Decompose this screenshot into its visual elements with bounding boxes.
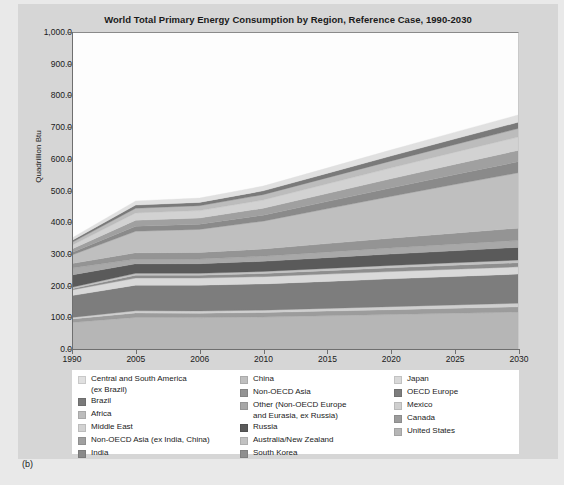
legend-swatch-icon: [240, 389, 248, 397]
legend-column-1: Central and South America (ex Brazil)Bra…: [78, 374, 238, 461]
y-tick-label: 100.0: [28, 312, 72, 322]
legend-swatch-icon: [240, 402, 248, 410]
x-tick-label: 1990: [42, 354, 102, 364]
stacked-area-plot: [72, 33, 518, 349]
legend-item-label: India: [91, 448, 108, 459]
y-tick-mark: [67, 32, 72, 33]
y-tick-mark: [67, 95, 72, 96]
x-tick-label: 2030: [489, 354, 549, 364]
y-tick-mark: [67, 64, 72, 65]
x-tick-label: 2006: [170, 354, 230, 364]
legend-item[interactable]: Australia/New Zealand: [240, 435, 388, 447]
y-tick-mark: [67, 159, 72, 160]
y-axis-ticks: 0.0100.0200.0300.0400.0500.0600.0700.080…: [18, 4, 72, 485]
legend-swatch-icon: [394, 415, 402, 423]
chart-legend: Central and South America (ex Brazil)Bra…: [72, 370, 519, 454]
y-tick-label: 0.0: [28, 344, 72, 354]
legend-swatch-icon: [394, 376, 402, 384]
y-tick-mark: [67, 191, 72, 192]
y-tick-mark: [67, 222, 72, 223]
chart-title: World Total Primary Energy Consumption b…: [18, 14, 558, 25]
x-tick-label: 2020: [361, 354, 421, 364]
legend-swatch-icon: [240, 450, 248, 458]
legend-item-label: Middle East: [91, 422, 133, 433]
legend-item[interactable]: Other (Non-OECD Europe and Eurasia, ex R…: [240, 400, 388, 421]
legend-item[interactable]: South Korea: [240, 448, 388, 460]
legend-item[interactable]: China: [240, 374, 388, 386]
x-tick-label: 2015: [297, 354, 357, 364]
legend-item-label: Brazil: [91, 396, 111, 407]
y-tick-label: 400.0: [28, 217, 72, 227]
legend-column-3: JapanOECD EuropeMexicoCanadaUnited State…: [394, 374, 514, 439]
x-tick-label: 2005: [106, 354, 166, 364]
legend-item-label: Africa: [91, 409, 111, 420]
legend-item[interactable]: Non-OECD Asia (ex India, China): [78, 435, 238, 447]
y-tick-mark: [67, 127, 72, 128]
legend-item[interactable]: Middle East: [78, 422, 238, 434]
legend-swatch-icon: [240, 437, 248, 445]
legend-item-label: Australia/New Zealand: [253, 435, 333, 446]
y-tick-mark: [67, 286, 72, 287]
legend-swatch-icon: [78, 437, 86, 445]
legend-item[interactable]: Russia: [240, 422, 388, 434]
legend-swatch-icon: [240, 424, 248, 432]
legend-item[interactable]: Non-OECD Asia: [240, 387, 388, 399]
legend-item[interactable]: Africa: [78, 409, 238, 421]
legend-item[interactable]: Mexico: [394, 400, 514, 412]
legend-item[interactable]: Canada: [394, 413, 514, 425]
y-tick-label: 700.0: [28, 122, 72, 132]
legend-swatch-icon: [394, 389, 402, 397]
legend-swatch-icon: [394, 402, 402, 410]
legend-swatch-icon: [78, 411, 86, 419]
legend-item-label: Non-OECD Asia (ex India, China): [91, 435, 210, 446]
legend-item-label: OECD Europe: [407, 387, 458, 398]
y-tick-label: 500.0: [28, 186, 72, 196]
legend-item[interactable]: United States: [394, 426, 514, 438]
legend-item-label: Russia: [253, 422, 277, 433]
legend-item-label: South Korea: [253, 448, 297, 459]
legend-swatch-icon: [78, 450, 86, 458]
legend-swatch-icon: [78, 424, 86, 432]
panel-caption: (b): [22, 459, 33, 469]
legend-item[interactable]: Brazil: [78, 396, 238, 408]
y-tick-label: 900.0: [28, 59, 72, 69]
y-tick-mark: [67, 317, 72, 318]
y-tick-mark: [67, 254, 72, 255]
x-axis-line: [72, 349, 520, 350]
legend-item-label: Japan: [407, 374, 429, 385]
legend-item[interactable]: India: [78, 448, 238, 460]
legend-item-label: Other (Non-OECD Europe and Eurasia, ex R…: [253, 400, 346, 421]
legend-item[interactable]: Japan: [394, 374, 514, 386]
y-tick-label: 1,000.0: [28, 27, 72, 37]
legend-swatch-icon: [240, 376, 248, 384]
x-tick-label: 2010: [234, 354, 294, 364]
legend-item-label: Mexico: [407, 400, 432, 411]
legend-item-label: Canada: [407, 413, 435, 424]
y-tick-label: 800.0: [28, 90, 72, 100]
legend-column-2: ChinaNon-OECD AsiaOther (Non-OECD Europe…: [240, 374, 388, 461]
legend-item[interactable]: Central and South America (ex Brazil): [78, 374, 238, 395]
legend-item-label: Central and South America (ex Brazil): [91, 374, 187, 395]
legend-swatch-icon: [78, 398, 86, 406]
plot-area: [72, 32, 519, 349]
figure-panel: World Total Primary Energy Consumption b…: [18, 4, 558, 459]
y-tick-label: 200.0: [28, 281, 72, 291]
legend-item-label: Non-OECD Asia: [253, 387, 311, 398]
legend-swatch-icon: [394, 428, 402, 436]
legend-swatch-icon: [78, 376, 86, 384]
y-tick-label: 300.0: [28, 249, 72, 259]
y-tick-label: 600.0: [28, 154, 72, 164]
x-tick-label: 2025: [425, 354, 485, 364]
legend-item[interactable]: OECD Europe: [394, 387, 514, 399]
y-axis-line: [72, 32, 73, 350]
legend-item-label: United States: [407, 426, 455, 437]
legend-item-label: China: [253, 374, 274, 385]
